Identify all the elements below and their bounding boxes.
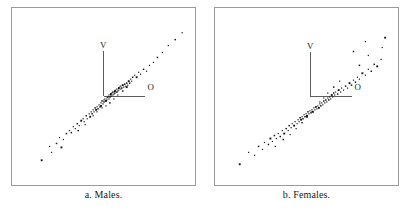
data-point <box>77 123 78 124</box>
data-point <box>311 109 312 110</box>
data-point <box>272 141 273 142</box>
data-point <box>258 146 259 147</box>
data-point <box>288 125 289 126</box>
data-point <box>101 107 102 108</box>
data-point <box>313 107 314 108</box>
data-point <box>56 143 57 144</box>
data-point <box>131 81 132 82</box>
data-point <box>69 130 70 131</box>
data-point <box>327 97 328 98</box>
data-point <box>326 101 327 102</box>
data-point <box>324 102 325 103</box>
data-point <box>283 133 285 135</box>
data-point <box>121 87 122 88</box>
data-point <box>337 93 338 94</box>
panel-females: V O <box>214 7 399 186</box>
data-point <box>106 99 107 100</box>
data-point <box>335 91 336 92</box>
data-point <box>85 115 86 116</box>
data-point <box>298 121 299 122</box>
data-point <box>124 83 125 84</box>
axis-label-o-females: O <box>354 82 361 92</box>
data-point <box>83 118 84 119</box>
data-point <box>126 82 127 83</box>
data-point <box>278 133 279 134</box>
data-point <box>128 80 130 82</box>
data-point <box>134 75 135 76</box>
data-point <box>102 103 103 104</box>
data-point <box>384 37 386 39</box>
data-point <box>280 136 281 137</box>
data-point <box>329 96 330 97</box>
data-point <box>361 72 363 74</box>
data-point <box>101 100 102 101</box>
axis-label-o-males: O <box>148 82 155 92</box>
data-point <box>316 108 317 109</box>
axis-label-v-males: V <box>100 40 107 50</box>
data-point <box>105 105 106 106</box>
caption-males: a. Males. <box>11 188 196 202</box>
data-point <box>51 152 52 153</box>
data-point <box>349 82 351 84</box>
data-point <box>308 113 309 114</box>
plot-box-females: V O <box>214 7 399 186</box>
data-point <box>353 51 354 52</box>
data-point <box>96 111 97 112</box>
data-point <box>153 62 154 63</box>
data-point <box>79 125 80 126</box>
data-point <box>322 104 323 105</box>
data-point <box>319 103 320 104</box>
data-point <box>122 84 124 86</box>
data-point <box>132 76 133 77</box>
data-point <box>301 116 302 117</box>
data-point <box>63 139 64 140</box>
data-point <box>87 118 88 119</box>
data-point <box>333 92 334 93</box>
data-point <box>368 55 369 56</box>
data-point <box>309 110 310 111</box>
data-point <box>292 123 293 124</box>
data-point <box>264 142 265 143</box>
data-point <box>89 113 90 114</box>
data-point <box>333 86 334 87</box>
axis-label-v-females: V <box>307 41 314 51</box>
data-point <box>138 72 139 73</box>
data-point <box>340 91 341 92</box>
figure-two-panel-scatter: V O a. Males. V O b. Females. <box>0 0 410 211</box>
data-point <box>78 130 79 131</box>
data-point <box>359 65 360 66</box>
data-point <box>140 74 141 75</box>
data-point <box>269 138 271 140</box>
data-point <box>100 105 102 107</box>
data-point <box>365 75 366 76</box>
data-point <box>103 101 104 102</box>
data-point <box>274 135 275 136</box>
data-point <box>341 88 342 89</box>
data-point <box>94 107 95 108</box>
data-point <box>98 104 99 105</box>
data-point <box>303 114 304 115</box>
data-point <box>275 146 276 147</box>
data-point <box>182 32 183 33</box>
data-points-males <box>41 32 183 161</box>
data-point <box>300 119 302 121</box>
data-point <box>49 146 50 147</box>
data-point <box>290 134 291 135</box>
data-point <box>73 126 74 127</box>
data-point <box>61 146 63 148</box>
data-point <box>311 111 312 112</box>
data-point <box>93 109 94 110</box>
data-point <box>323 97 324 98</box>
data-point <box>268 144 269 145</box>
data-point <box>323 100 324 101</box>
data-point <box>143 69 144 70</box>
data-point <box>71 132 72 133</box>
data-point <box>100 102 101 103</box>
data-point <box>345 85 346 86</box>
data-point <box>112 91 113 92</box>
caption-females: b. Females. <box>214 188 399 202</box>
data-point <box>331 94 333 96</box>
data-point <box>75 128 76 129</box>
data-point <box>95 109 97 111</box>
data-point <box>168 45 169 46</box>
